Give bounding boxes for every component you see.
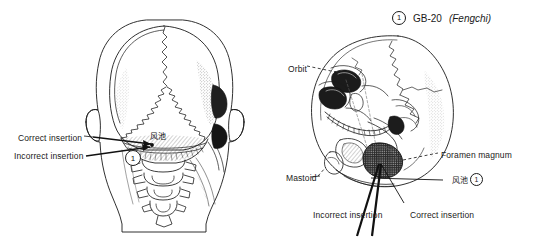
right-panel-artwork: [312, 36, 454, 187]
left-correct-insertion-label: Correct insertion: [18, 133, 82, 143]
orbit-label: Orbit: [288, 64, 307, 74]
left-panel-artwork: [86, 20, 244, 232]
anatomical-figure: 1 风池: [0, 0, 539, 238]
right-correct-insertion-label: Correct insertion: [410, 210, 474, 220]
point-code: GB-20: [413, 13, 442, 24]
mastoid-label: Mastoid: [286, 173, 316, 183]
right-panel-cjk-label: 风池: [452, 174, 468, 185]
right-panel-point-label: 风池 1: [452, 173, 483, 186]
left-panel-marker-1: 1: [131, 154, 136, 163]
point-name: (Fengchi): [449, 13, 491, 24]
figure-header: 1 GB-20 (Fengchi): [392, 11, 491, 25]
right-panel-marker-1: 1: [470, 173, 483, 186]
header-marker-1: 1: [392, 11, 406, 25]
left-panel-cjk-label: 风池: [150, 131, 166, 141]
left-incorrect-insertion-label: Incorrect insertion: [14, 151, 83, 161]
foramen-magnum-label: Foramen magnum: [441, 150, 512, 160]
right-incorrect-insertion-label: Incorrect insertion: [313, 210, 382, 220]
